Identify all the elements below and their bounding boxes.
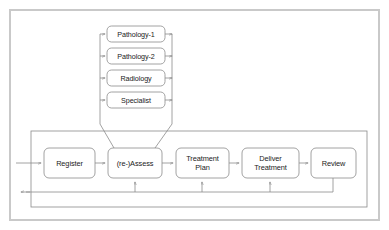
flowchart-graphics xyxy=(0,0,389,230)
node-box-treatment-plan xyxy=(176,148,229,178)
node-box-specialist xyxy=(107,92,165,108)
node-box-pathology-2 xyxy=(107,48,165,64)
node-box-review xyxy=(311,148,356,178)
feedback-bus-line xyxy=(26,178,333,192)
node-box-radiology xyxy=(107,70,165,86)
node-box-deliver-treatment xyxy=(242,148,299,178)
diagram-canvas: Pathology-1 Pathology-2 Radiology Specia… xyxy=(0,0,389,230)
node-box-register xyxy=(44,148,95,178)
funnel-right-edge xyxy=(155,124,172,148)
node-box-pathology-1 xyxy=(107,26,165,42)
funnel-left-edge xyxy=(100,124,114,148)
node-box-re-assess xyxy=(108,148,162,178)
